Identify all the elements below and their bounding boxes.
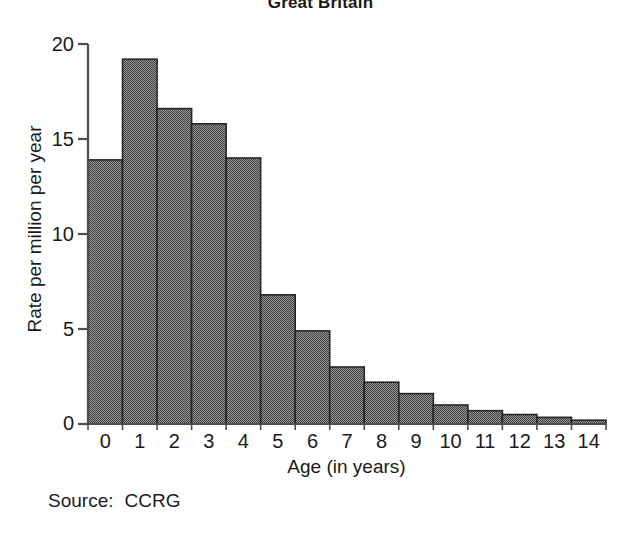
bar-age-6: [295, 331, 330, 424]
source-label: Source:: [48, 490, 113, 511]
bar-age-4: [226, 158, 261, 424]
bar-age-11: [468, 411, 503, 424]
bar-age-8: [364, 382, 399, 424]
bar-age-1: [123, 59, 158, 424]
bar-age-9: [399, 394, 434, 424]
bars-group: [88, 59, 606, 424]
y-axis-title: Rate per million per year: [24, 64, 46, 394]
bar-age-7: [330, 367, 365, 424]
x-tick-label-14: 14: [569, 430, 609, 453]
bar-age-0: [88, 160, 123, 424]
bar-age-3: [192, 124, 227, 424]
bar-age-5: [261, 295, 296, 424]
source-value: CCRG: [124, 490, 180, 511]
x-axis-title: Age (in years): [88, 456, 605, 478]
source-note: Source:CCRG: [48, 490, 180, 512]
chart-figure: Great Britain 20 15 10 5 0 0123456789101…: [0, 0, 641, 537]
bar-age-2: [157, 109, 192, 424]
bar-age-10: [433, 405, 468, 424]
bar-age-12: [502, 415, 537, 425]
